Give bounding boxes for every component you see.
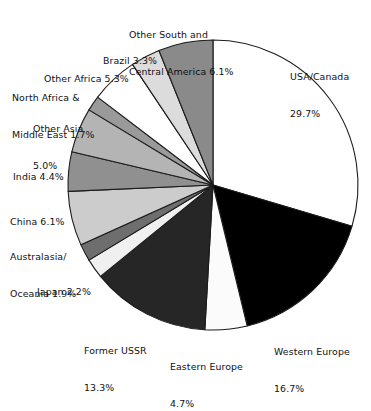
pie-label-eastern-europe-line1: Eastern Europe	[170, 361, 243, 373]
pie-label-eastern-europe-line2: 4.7%	[170, 398, 243, 410]
pie-label-china-line1: China 6.1%	[10, 216, 65, 228]
pie-label-western-europe: Western Europe 16.7%	[274, 322, 350, 411]
pie-label-other-south-central-america: Other South and Central America 6.1%	[129, 5, 234, 103]
pie-label-usa-canada-line2: 29.7%	[290, 108, 349, 120]
pie-label-former-ussr: Former USSR 13.3%	[84, 321, 147, 411]
pie-label-australasia-oceania-line2: Oceania 1.9%	[10, 288, 76, 300]
pie-label-australasia-oceania-line1: Australasia/	[10, 251, 76, 263]
pie-label-north-africa-middle-east-line2: Middle East 1.7%	[12, 129, 95, 141]
pie-label-other-south-central-america-line1: Other South and	[129, 29, 234, 41]
pie-label-eastern-europe: Eastern Europe 4.7%	[170, 337, 243, 411]
pie-label-western-europe-line1: Western Europe	[274, 346, 350, 358]
pie-label-usa-canada-line1: USA/Canada	[290, 71, 349, 83]
pie-label-former-ussr-line1: Former USSR	[84, 345, 147, 357]
pie-label-other-south-central-america-line2: Central America 6.1%	[129, 66, 234, 78]
pie-label-usa-canada: USA/Canada 29.7%	[290, 47, 349, 145]
pie-label-former-ussr-line2: 13.3%	[84, 382, 147, 394]
pie-label-western-europe-line2: 16.7%	[274, 383, 350, 395]
